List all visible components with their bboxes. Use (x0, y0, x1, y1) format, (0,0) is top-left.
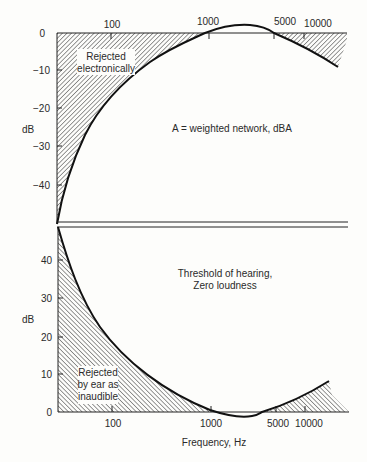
upper-xtick-1000: 1000 (197, 16, 220, 27)
upper-xtick-10000: 10000 (304, 18, 332, 29)
a-weighting-figure: 0 −10 −20 −30 −40 dB 100 1000 5000 10000… (0, 0, 367, 462)
lower-ytick-40: 40 (41, 255, 53, 266)
lower-annotation-line2: by ear as (77, 379, 118, 390)
upper-ytick-0: 0 (39, 28, 45, 39)
lower-xtick-5000: 5000 (267, 418, 290, 429)
lower-xtick-10000: 10000 (295, 418, 323, 429)
lower-title-line1: Threshold of hearing, (178, 268, 273, 279)
lower-xtick-100: 100 (105, 418, 122, 429)
lower-ytick-20: 20 (41, 332, 53, 343)
lower-xtick-1000: 1000 (200, 418, 223, 429)
upper-plot: 0 −10 −20 −30 −40 dB 100 1000 5000 10000… (22, 16, 347, 224)
upper-annotation-line2: electronically (77, 63, 135, 74)
lower-ytick-10: 10 (41, 369, 53, 380)
upper-ytick-4: −40 (33, 180, 50, 191)
lower-ylabel: dB (22, 314, 35, 325)
upper-title: A = weighted network, dBA (172, 123, 292, 134)
lower-ytick-0: 0 (46, 407, 52, 418)
upper-xtick-5000: 5000 (274, 16, 297, 27)
lower-title-line2: Zero loudness (193, 280, 256, 291)
lower-ytick-30: 30 (41, 293, 53, 304)
lower-annotation-line1: Rejected (78, 367, 117, 378)
upper-ytick-2: −20 (33, 103, 50, 114)
upper-annotation-line1: Rejected (86, 51, 125, 62)
x-axis-label: Frequency, Hz (182, 437, 246, 448)
lower-annotation-line3: inaudible (78, 391, 118, 402)
upper-ytick-3: −30 (33, 141, 50, 152)
upper-ytick-1: −10 (33, 65, 50, 76)
upper-xtick-100: 100 (104, 19, 121, 30)
lower-plot: 40 30 20 10 0 dB 100 1000 5000 10000 Rej… (22, 227, 349, 448)
upper-ylabel: dB (22, 124, 35, 135)
